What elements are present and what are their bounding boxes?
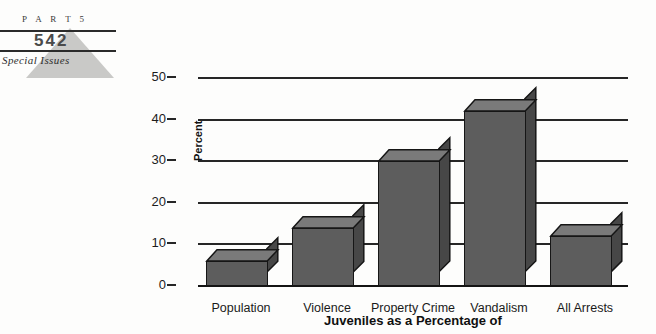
bar [550,225,612,286]
bar-front-face [378,161,440,286]
y-axis-tick-mark [167,159,176,161]
bar-front-face [550,236,612,286]
bar-side-face [526,111,537,286]
plot-area: Percent 01020304050 PopulationViolencePr… [198,65,628,287]
bar-side-face [354,228,365,286]
bar-top-face [378,150,440,161]
gridline [198,77,628,79]
bar-top-face [206,250,268,261]
bar [292,217,354,286]
bar-top-face [550,225,612,236]
bar [464,100,526,286]
y-axis-tick-mark [167,242,176,244]
y-axis-label: Percent [192,121,204,161]
y-axis-tick-mark [167,76,176,78]
y-axis-tick-label: 30 [126,152,166,167]
chart-title: Juveniles as a Percentage of [198,313,628,328]
y-axis-tick-label: 20 [126,194,166,209]
x-axis-line [198,285,628,287]
bar-top-face [292,217,354,228]
bar-side-face [268,261,279,286]
y-axis-tick-mark [167,201,176,203]
header-rule-bottom [0,50,116,52]
page-header: P A R T 5 542 Special Issues [0,14,140,80]
bar-side-face [440,161,451,286]
bar-front-face [464,111,526,286]
y-axis-tick-mark [167,284,176,286]
part-label: P A R T 5 [22,14,87,24]
y-axis-tick-mark [167,118,176,120]
section-label: Special Issues [2,54,70,66]
bar-front-face [292,228,354,286]
bar-side-face [612,236,623,286]
bar [206,250,268,286]
bar-front-face [206,261,268,286]
bar-chart: Percent 01020304050 PopulationViolencePr… [140,55,640,330]
y-axis-tick-label: 50 [126,69,166,84]
gridline [198,119,628,121]
bar [378,150,440,286]
page-number: 542 [34,31,68,51]
y-axis-tick-label: 0 [126,277,166,292]
y-axis-tick-label: 10 [126,235,166,250]
y-axis-tick-label: 40 [126,111,166,126]
bar-top-face [464,100,526,111]
